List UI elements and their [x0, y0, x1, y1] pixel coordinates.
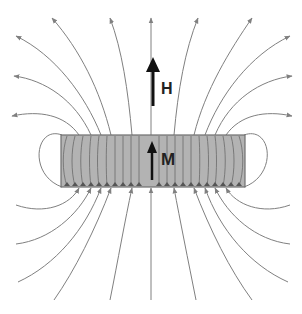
- field-diagram: [0, 0, 302, 314]
- h-vector-arrow: [146, 57, 160, 106]
- h-label: H: [161, 80, 173, 98]
- field-lines-bottom: [16, 188, 290, 300]
- m-label: M: [161, 150, 175, 170]
